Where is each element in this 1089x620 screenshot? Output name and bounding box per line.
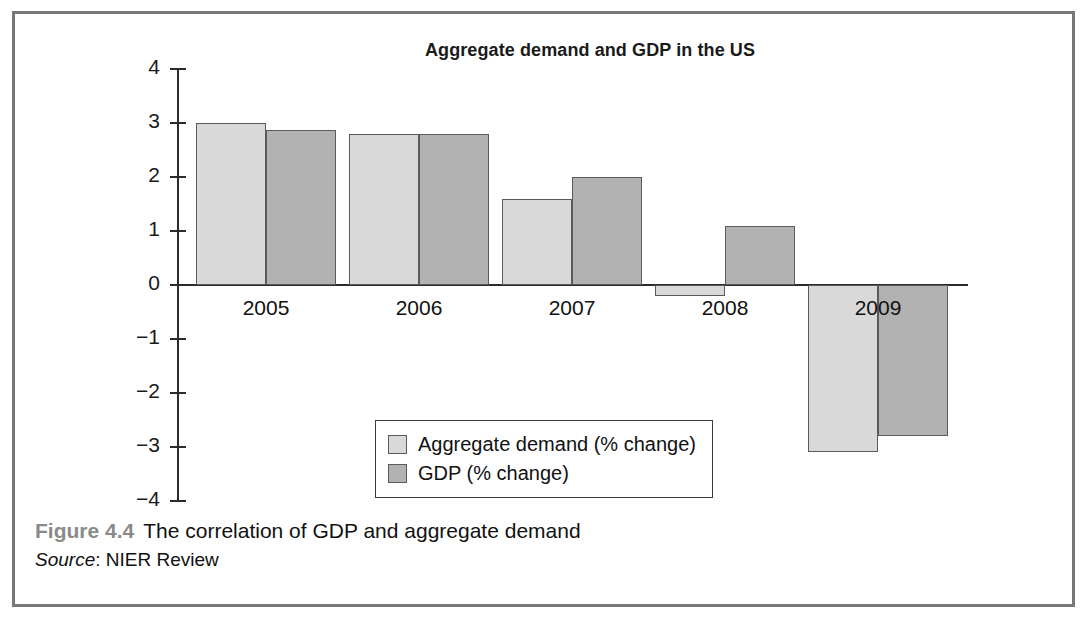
source-value: NIER Review [106, 549, 219, 570]
source-separator: : [95, 549, 106, 570]
bar [502, 199, 572, 285]
bar [266, 130, 336, 285]
legend-item: Aggregate demand (% change) [388, 430, 712, 459]
legend-item-label: GDP (% change) [418, 462, 569, 485]
figure-number: Figure 4.4 [35, 519, 134, 542]
source-line: Source: NIER Review [35, 549, 935, 571]
y-axis-tick-label: −4 [100, 487, 160, 511]
bar [725, 226, 795, 285]
legend-swatch-icon [388, 435, 407, 454]
y-axis-tick [170, 122, 186, 124]
chart-legend: Aggregate demand (% change) GDP (% chang… [375, 420, 713, 498]
y-axis-tick-label: −2 [100, 379, 160, 403]
x-axis-tick-label: 2007 [497, 296, 647, 320]
bar [349, 134, 419, 285]
y-axis-tick-label: −1 [100, 325, 160, 349]
bar [572, 177, 642, 285]
y-axis-tick-label: 2 [100, 163, 160, 187]
legend-item: GDP (% change) [388, 459, 712, 488]
y-axis-tick-label: 0 [100, 271, 160, 295]
x-axis-tick-label: 2008 [650, 296, 800, 320]
figure-caption: Figure 4.4The correlation of GDP and agg… [35, 519, 935, 571]
bar [419, 134, 489, 285]
y-axis-tick [170, 230, 186, 232]
caption-line: Figure 4.4The correlation of GDP and agg… [35, 519, 935, 543]
y-axis-tick-label: 3 [100, 109, 160, 133]
y-axis-tick-label: 1 [100, 217, 160, 241]
x-axis-tick-label: 2005 [191, 296, 341, 320]
y-axis-tick [170, 500, 186, 502]
bar [655, 285, 725, 296]
source-label: Source [35, 549, 95, 570]
y-axis-tick [170, 338, 186, 340]
y-axis-tick [170, 446, 186, 448]
figure-page: Aggregate demand and GDP in the US 43210… [0, 0, 1089, 620]
legend-swatch-icon [388, 464, 407, 483]
y-axis-tick [170, 392, 186, 394]
y-axis-tick [170, 176, 186, 178]
bar [196, 123, 266, 285]
x-axis-tick-label: 2006 [344, 296, 494, 320]
x-axis-tick-label: 2009 [803, 296, 953, 320]
chart-title: Aggregate demand and GDP in the US [390, 40, 790, 61]
y-axis-tick [170, 284, 186, 286]
caption-text: The correlation of GDP and aggregate dem… [143, 519, 580, 542]
y-axis-tick-label: −3 [100, 433, 160, 457]
y-axis-tick-label: 4 [100, 55, 160, 79]
y-axis-tick [170, 68, 186, 70]
legend-item-label: Aggregate demand (% change) [418, 433, 696, 456]
